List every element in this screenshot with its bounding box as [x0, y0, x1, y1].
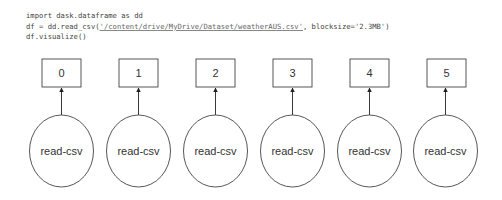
- output-label: 3: [289, 67, 295, 79]
- task-label: read-csv: [424, 145, 467, 157]
- partition-5: 5 read-csv: [414, 59, 478, 187]
- output-label: 5: [443, 67, 449, 79]
- output-label: 4: [366, 67, 372, 79]
- partition-1: 1 read-csv: [107, 59, 171, 187]
- output-label: 1: [135, 67, 141, 79]
- partition-3: 3 read-csv: [261, 59, 325, 187]
- partition-2: 2 read-csv: [184, 59, 248, 187]
- task-label: read-csv: [194, 145, 237, 157]
- output-label: 0: [58, 67, 64, 79]
- task-label: read-csv: [348, 145, 391, 157]
- partition-4: 4 read-csv: [338, 59, 402, 187]
- task-label: read-csv: [117, 145, 160, 157]
- task-label: read-csv: [40, 145, 83, 157]
- task-label: read-csv: [271, 145, 314, 157]
- task-graph: 0 read-csv 1 read-csv 2 read-csv 3 read-…: [0, 0, 502, 200]
- output-label: 2: [212, 67, 218, 79]
- partition-0: 0 read-csv: [30, 59, 94, 187]
